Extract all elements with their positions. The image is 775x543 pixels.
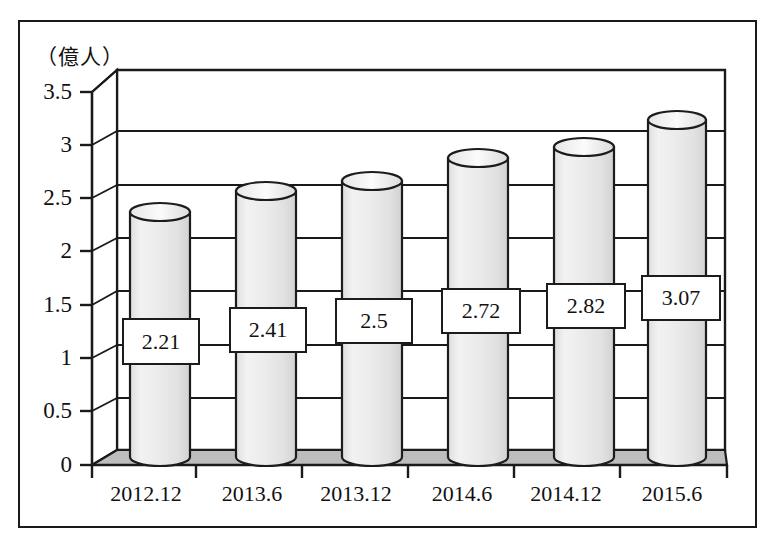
y-axis bbox=[80, 92, 92, 465]
bar-value-label: 2.5 bbox=[335, 298, 413, 344]
y-tick-label: 2 bbox=[20, 238, 72, 264]
plot-back-wall bbox=[117, 70, 725, 450]
y-tick-label: 2.5 bbox=[20, 185, 72, 211]
bar-value-label: 2.41 bbox=[229, 307, 307, 353]
x-category-label: 2013.6 bbox=[200, 481, 304, 507]
y-tick-label: 0 bbox=[20, 452, 72, 478]
x-category-label: 2015.6 bbox=[620, 481, 724, 507]
chart-canvas bbox=[0, 0, 775, 543]
y-tick-label: 3 bbox=[20, 132, 72, 158]
y-tick-label: 3.5 bbox=[20, 79, 72, 105]
plot-left-wall bbox=[92, 70, 117, 465]
bar-value-label: 2.21 bbox=[122, 318, 200, 365]
x-category-label: 2013.12 bbox=[296, 481, 416, 507]
x-category-label: 2012.12 bbox=[86, 481, 206, 507]
x-category-label: 2014.12 bbox=[506, 481, 626, 507]
y-tick-label: 1 bbox=[20, 345, 72, 371]
x-category-label: 2014.6 bbox=[410, 481, 514, 507]
y-tick-label: 1.5 bbox=[20, 292, 72, 318]
figure-root: （億人） bbox=[0, 0, 775, 543]
x-axis bbox=[92, 465, 727, 478]
bar-value-label: 2.72 bbox=[441, 288, 521, 334]
bar-value-label: 3.07 bbox=[641, 275, 721, 321]
bar-value-label: 2.82 bbox=[546, 283, 626, 329]
y-tick-label: 0.5 bbox=[20, 398, 72, 424]
